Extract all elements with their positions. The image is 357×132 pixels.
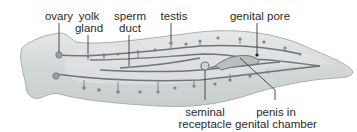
label-genital-pore: genital pore xyxy=(230,10,290,22)
label-text: receptacle xyxy=(178,118,231,130)
label-text: genital pore xyxy=(230,10,290,22)
label-text: sperm xyxy=(114,10,146,22)
label-text: penis in xyxy=(235,106,317,118)
ovary-organ xyxy=(53,73,59,79)
label-text: testis xyxy=(161,10,188,22)
label-seminal-receptacle: seminal receptacle xyxy=(178,106,231,130)
flatworm-diagram: ovary yolk gland sperm duct testis genit… xyxy=(0,0,357,132)
label-penis-in-genital-chamber: penis in genital chamber xyxy=(235,106,317,130)
label-sperm-duct: sperm duct xyxy=(114,10,146,34)
label-yolk-gland: yolk gland xyxy=(75,10,103,34)
label-ovary: ovary xyxy=(45,10,73,22)
label-text: ovary xyxy=(45,10,73,22)
label-text: duct xyxy=(114,22,146,34)
label-text: seminal xyxy=(178,106,231,118)
label-text: gland xyxy=(75,22,103,34)
label-text: yolk xyxy=(75,10,103,22)
seminal-receptacle-organ xyxy=(201,62,209,70)
label-testis: testis xyxy=(161,10,188,22)
label-text: genital chamber xyxy=(235,118,317,130)
ovary-organ xyxy=(56,52,62,58)
